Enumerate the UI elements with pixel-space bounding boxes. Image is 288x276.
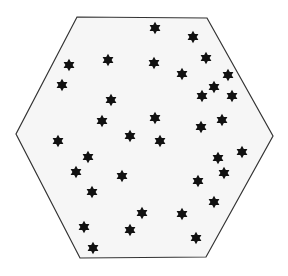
diagram-canvas [0,0,288,276]
hexagon-diagram [0,0,288,276]
hexagon-outline [16,17,273,258]
